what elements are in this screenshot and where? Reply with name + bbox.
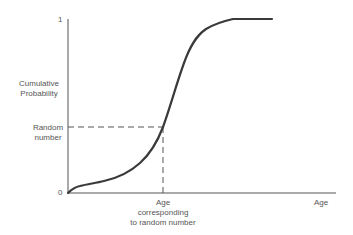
age-corr-line3: to random number: [123, 218, 203, 228]
cdf-curve: [68, 19, 272, 193]
y-axis-label-line2: Probability: [14, 89, 64, 99]
random-number-label: Random number: [28, 123, 68, 143]
y-tick-1: 1: [58, 15, 62, 25]
y-tick-0: 0: [58, 188, 62, 198]
y-axis-label: Cumulative Probability: [14, 79, 64, 99]
random-number-line2: number: [28, 133, 68, 143]
x-axis-label: Age: [314, 198, 328, 208]
age-corr-line1: Age: [123, 198, 203, 208]
age-corresponding-label: Age corresponding to random number: [123, 198, 203, 228]
random-number-line1: Random: [28, 123, 68, 133]
age-corr-line2: corresponding: [123, 208, 203, 218]
y-axis-label-line1: Cumulative: [14, 79, 64, 89]
